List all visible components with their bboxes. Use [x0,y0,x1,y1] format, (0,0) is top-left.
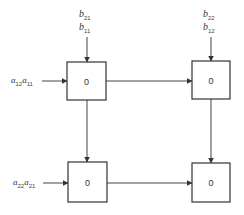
svg-text:a12a11: a12a11 [11,75,34,87]
input-b-col2: b22 b12 [203,8,215,34]
svg-text:a22a21: a22a21 [13,177,36,189]
cell-21-value: 0 [85,178,90,188]
svg-text:b12: b12 [203,21,215,34]
svg-text:b11: b11 [79,21,91,34]
input-b-col1: b21 b11 [79,8,91,34]
cell-12: 0 [192,61,230,99]
svg-text:b21: b21 [79,8,91,21]
cell-11: 0 [67,62,106,100]
cell-11-value: 0 [84,77,89,87]
cell-22-value: 0 [208,178,213,188]
systolic-array-diagram: b21 b11 b22 b12 a12a11 a22a21 0 0 0 0 [0,0,244,215]
svg-text:b22: b22 [203,8,215,21]
cell-22: 0 [192,163,230,202]
cell-12-value: 0 [208,76,213,86]
cell-21: 0 [68,162,107,202]
input-a-row2: a22a21 [13,177,36,189]
input-a-row1: a12a11 [11,75,34,87]
